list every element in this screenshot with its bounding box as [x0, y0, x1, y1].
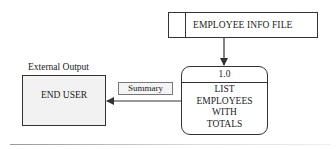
flow-label-summary: Summary: [118, 82, 173, 95]
process-box: 1.0 LIST EMPLOYEES WITH TOTALS: [181, 66, 268, 135]
external-entity-caption: External Output: [28, 62, 89, 72]
process-name-line: LIST: [182, 84, 267, 96]
process-name: LIST EMPLOYEES WITH TOTALS: [182, 84, 267, 130]
process-name-line: EMPLOYEES: [182, 96, 267, 108]
external-entity-end-user: END USER: [22, 75, 106, 126]
external-entity-label: END USER: [23, 90, 105, 100]
process-name-line: WITH: [182, 107, 267, 119]
data-store-label: EMPLOYEE INFO FILE: [186, 13, 317, 37]
data-store-employee-info-file: EMPLOYEE INFO FILE: [168, 12, 318, 38]
process-name-line: TOTALS: [182, 119, 267, 131]
bottom-divider: [10, 144, 330, 145]
process-id: 1.0: [182, 67, 267, 83]
data-store-id-cell: [169, 13, 186, 37]
